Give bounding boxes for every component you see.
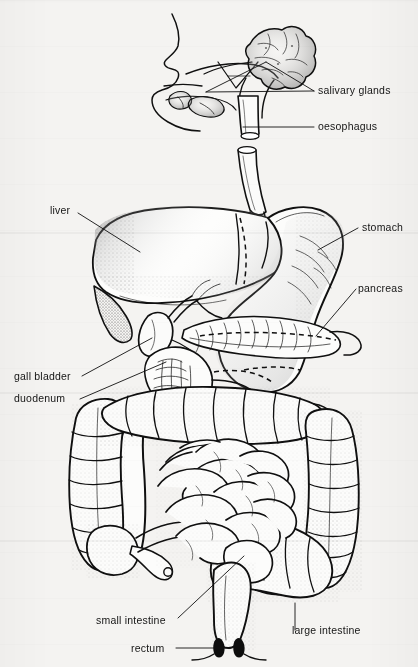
label-small-intestine: small intestine <box>96 614 166 626</box>
label-liver: liver <box>50 204 71 216</box>
transverse-colon <box>100 386 330 446</box>
label-stomach: stomach <box>362 221 403 233</box>
label-rectum: rectum <box>131 642 164 654</box>
rectum-drawing <box>192 562 266 660</box>
label-duodenum: duodenum <box>14 392 65 404</box>
small-intestine-drawing <box>156 439 300 583</box>
figure-canvas: salivary glands oesophagus stomach pancr… <box>0 0 418 667</box>
leader-salivary-glands-2 <box>206 91 314 92</box>
sublingual-gland-shape <box>169 92 224 118</box>
label-salivary-glands: salivary glands <box>318 84 391 96</box>
leader-gall-bladder <box>82 338 152 376</box>
label-oesophagus: oesophagus <box>318 120 377 132</box>
label-gall-bladder: gall bladder <box>14 370 71 382</box>
label-large-intestine: large intestine <box>292 624 361 636</box>
head-profile-drawing <box>152 14 316 131</box>
digestive-system-illustration: salivary glands oesophagus stomach pancr… <box>0 0 418 667</box>
pancreas-drawing <box>182 317 361 359</box>
label-pancreas: pancreas <box>358 282 403 294</box>
parotid-gland-shape <box>246 27 316 90</box>
